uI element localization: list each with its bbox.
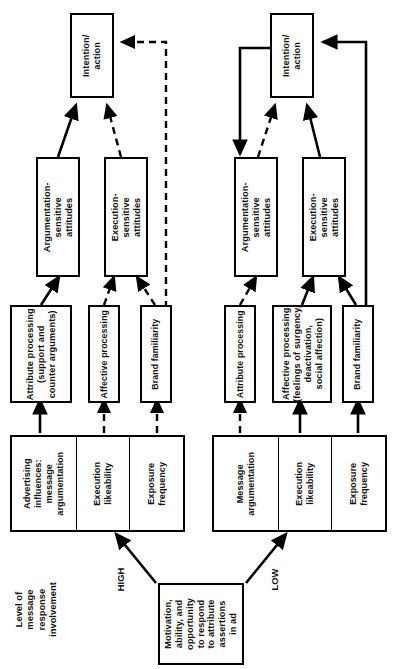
node-label: Execution- sensitive attitudes [308, 193, 341, 241]
node-label: Brand familiarity [353, 318, 363, 389]
node-high-intention-action[interactable]: Intention/ action [70, 13, 114, 98]
cell-low-execution-likeability[interactable]: Execution likeability [279, 437, 333, 530]
cell-label: Exposure frequency [146, 462, 168, 506]
node-label: Attribute processing [235, 310, 245, 398]
diagram-canvas: Intention/ action Argumentation- sensiti… [0, 0, 402, 669]
edge-low-attribute-to-argumentation [240, 277, 256, 305]
cell-label: Exposure frequency [348, 462, 370, 506]
edge-low-argumentation-to-intention [258, 105, 275, 157]
cell-low-message-argumentation[interactable]: Message argumentation [214, 437, 279, 530]
edge-low-execution-att-to-intention [307, 105, 320, 157]
node-low-execution-sensitive-attitudes[interactable]: Execution- sensitive attitudes [302, 157, 346, 277]
group-high-inputs: Advertising influences: message argument… [10, 435, 185, 532]
node-root-motivation-ability-opportunity[interactable]: Motivation, ability, and opportunity to … [158, 583, 244, 665]
cell-high-execution-likeability[interactable]: Execution likeability [77, 437, 131, 530]
edge-low-intention-to-argumentation [240, 48, 270, 154]
diagram-title: Level of message response involvement [8, 556, 62, 664]
node-low-attribute-processing[interactable]: Attribute processing [224, 305, 256, 403]
node-low-brand-familiarity[interactable]: Brand familiarity [342, 305, 374, 403]
node-low-affective-processing[interactable]: Affective processing (feelings of surgen… [272, 305, 332, 403]
node-high-brand-familiarity[interactable]: Brand familiarity [140, 305, 172, 403]
cell-label: Execution likeability [92, 462, 114, 506]
branch-label-low-text: LOW [270, 568, 281, 590]
cell-label: Message argumentation [235, 452, 257, 516]
edge-low-brand-to-execution-att [339, 277, 356, 305]
cell-label: Execution likeability [294, 462, 316, 506]
edge-high-brand-to-execution-att [137, 277, 155, 305]
node-label: Attribute processing (support and counte… [25, 308, 58, 400]
node-label: Intention/ action [281, 34, 303, 76]
node-high-execution-sensitive-attitudes[interactable]: Execution- sensitive attitudes [104, 157, 148, 277]
node-high-attribute-processing[interactable]: Attribute processing (support and counte… [10, 305, 72, 403]
edge-high-attribute-to-argumentation [41, 277, 59, 305]
node-high-affective-processing[interactable]: Affective processing [88, 305, 120, 403]
edge-high-execution-att-to-intention [107, 105, 121, 157]
node-high-argumentation-sensitive-attitudes[interactable]: Argumentation- sensitive attitudes [36, 157, 80, 277]
node-label: Argumentation- sensitive attitudes [240, 182, 273, 252]
branch-label-high-text: HIGH [116, 567, 127, 590]
branch-label-high: HIGH [108, 556, 134, 602]
node-label: Affective processing [99, 310, 109, 399]
diagram-title-label: Level of message response involvement [12, 583, 57, 638]
node-low-argumentation-sensitive-attitudes[interactable]: Argumentation- sensitive attitudes [234, 157, 278, 277]
cell-high-exposure-frequency[interactable]: Exposure frequency [130, 437, 183, 530]
node-label: Argumentation- sensitive attitudes [42, 182, 75, 252]
edge-low-affective-to-execution-att [302, 277, 313, 305]
node-low-intention-action[interactable]: Intention/ action [270, 13, 314, 98]
edge-high-affective-to-execution-att [104, 277, 114, 305]
edge-high-argumentation-to-intention [58, 105, 76, 157]
node-label: Brand familiarity [151, 318, 161, 389]
branch-label-low: LOW [262, 556, 288, 602]
cell-low-exposure-frequency[interactable]: Exposure frequency [332, 437, 385, 530]
cell-high-message-argumentation[interactable]: Advertising influences: message argument… [12, 437, 77, 530]
cell-label: Advertising influences: message argument… [22, 452, 65, 516]
node-label: Intention/ action [81, 34, 103, 76]
node-label: Motivation, ability, and opportunity to … [163, 598, 239, 650]
node-label: Execution- sensitive attitudes [110, 193, 143, 241]
group-low-inputs: Message argumentation Execution likeabil… [212, 435, 387, 532]
node-label: Affective processing (feelings of surgen… [280, 306, 323, 402]
